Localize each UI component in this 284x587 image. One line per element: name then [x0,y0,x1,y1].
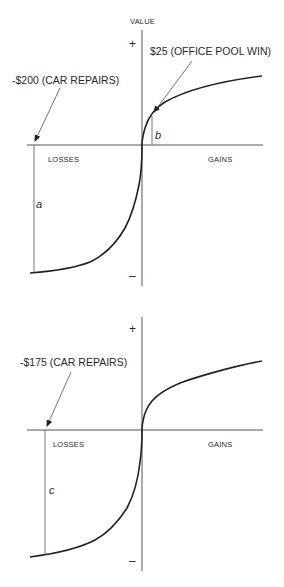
segment-b-label: b [155,129,161,141]
minus-sign: – [129,269,136,283]
value-function-diagram: VALUE + – LOSSES GAINS a b -$200 (CAR RE… [0,0,284,587]
minus-sign: – [129,554,136,568]
gains-label: GAINS [208,155,232,164]
gains-label: GAINS [208,440,232,449]
bottom-panel: + – LOSSES GAINS c -$175 (CAR REPAIRS) [20,317,263,571]
segment-c-label: c [49,484,55,496]
plus-sign: + [129,322,136,336]
top-panel: VALUE + – LOSSES GAINS a b -$200 (CAR RE… [12,17,271,286]
loss-annotation: -$175 (CAR REPAIRS) [20,356,127,368]
plus-sign: + [129,37,136,51]
losses-label: LOSSES [48,155,79,164]
loss-annotation: -$200 (CAR REPAIRS) [12,74,119,86]
segment-a-label: a [36,198,42,210]
losses-label: LOSSES [53,440,84,449]
value-curve [30,76,262,273]
gain-arrow [154,61,192,112]
loss-arrow [47,372,71,426]
value-curve [30,361,262,557]
gain-annotation: $25 (OFFICE POOL WIN) [150,45,271,57]
loss-arrow [35,88,60,141]
value-axis-label: VALUE [130,17,155,26]
